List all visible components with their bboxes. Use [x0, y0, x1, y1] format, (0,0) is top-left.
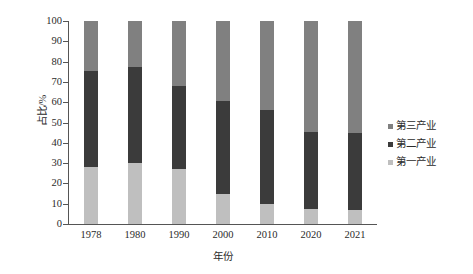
x-tick-label: 1990 [157, 228, 201, 241]
y-tick-mark [63, 204, 68, 205]
x-tick-label: 2010 [245, 228, 289, 241]
bar-segment [128, 163, 142, 224]
y-tick-label: 30 [26, 158, 62, 169]
bar-segment [128, 21, 142, 67]
legend-label: 第一产业 [396, 156, 436, 168]
y-tick-mark [63, 21, 68, 22]
bar-segment [304, 209, 318, 224]
chart-legend: 第三产业第二产业第一产业 [388, 118, 471, 172]
stacked-bar [348, 21, 362, 224]
y-tick-label: 100 [26, 16, 62, 27]
legend-item[interactable]: 第二产业 [388, 136, 471, 152]
plot-area [69, 21, 377, 224]
y-tick-label: 40 [26, 138, 62, 149]
stacked-bar [260, 21, 274, 224]
y-tick-label: 60 [26, 97, 62, 108]
y-tick-mark [63, 82, 68, 83]
y-tick-label: 80 [26, 57, 62, 68]
bar-segment [260, 204, 274, 224]
bar-segment [172, 86, 186, 169]
y-tick-label: 90 [26, 36, 62, 47]
legend-item[interactable]: 第一产业 [388, 154, 471, 170]
x-axis-line [68, 224, 377, 225]
bar-segment [216, 194, 230, 224]
bar-segment [348, 133, 362, 210]
stacked-bar [128, 21, 142, 224]
bar-group [216, 21, 230, 224]
bar-group [128, 21, 142, 224]
stacked-bar [304, 21, 318, 224]
bar-group [304, 21, 318, 224]
y-tick-mark [63, 183, 68, 184]
bar-segment [304, 132, 318, 209]
y-tick-mark [63, 224, 68, 225]
bar-segment [84, 21, 98, 71]
bar-segment [260, 110, 274, 203]
legend-item[interactable]: 第三产业 [388, 118, 471, 134]
legend-swatch-icon [388, 124, 393, 129]
y-tick-mark [63, 41, 68, 42]
x-tick-label: 2020 [289, 228, 333, 241]
bar-segment [216, 21, 230, 101]
stacked-bar [172, 21, 186, 224]
y-tick-mark [63, 102, 68, 103]
x-tick-label: 2021 [333, 228, 377, 241]
legend-swatch-icon [388, 160, 393, 165]
x-tick-label: 1978 [69, 228, 113, 241]
bar-group [348, 21, 362, 224]
legend-label: 第二产业 [396, 138, 436, 150]
stacked-bar-chart: 占比/% 1009080706050403020100 197819801990… [0, 0, 473, 274]
x-axis-label: 年份 [69, 248, 377, 263]
bar-group [172, 21, 186, 224]
y-tick-label: 0 [26, 219, 62, 230]
y-tick-mark [63, 163, 68, 164]
y-tick-label: 20 [26, 178, 62, 189]
stacked-bar [84, 21, 98, 224]
y-tick-label: 70 [26, 77, 62, 88]
legend-swatch-icon [388, 142, 393, 147]
y-tick-mark [63, 62, 68, 63]
stacked-bar [216, 21, 230, 224]
bar-segment [216, 101, 230, 193]
bar-group [84, 21, 98, 224]
y-tick-label: 50 [26, 118, 62, 129]
y-tick-label: 10 [26, 199, 62, 210]
bar-segment [84, 167, 98, 224]
x-axis-tick-labels: 1978198019902000201020202021 [69, 228, 377, 244]
bar-segment [172, 169, 186, 224]
x-tick-label: 2000 [201, 228, 245, 241]
y-tick-mark [63, 143, 68, 144]
bar-segment [260, 21, 274, 110]
bar-segment [304, 21, 318, 132]
bar-segment [84, 71, 98, 167]
y-tick-mark [63, 123, 68, 124]
x-tick-label: 1980 [113, 228, 157, 241]
legend-label: 第三产业 [396, 120, 436, 132]
y-axis-tick-labels: 1009080706050403020100 [26, 21, 62, 224]
bar-group [260, 21, 274, 224]
bar-segment [348, 21, 362, 133]
bar-segment [172, 21, 186, 86]
bar-segment [128, 67, 142, 163]
bar-segment [348, 210, 362, 224]
